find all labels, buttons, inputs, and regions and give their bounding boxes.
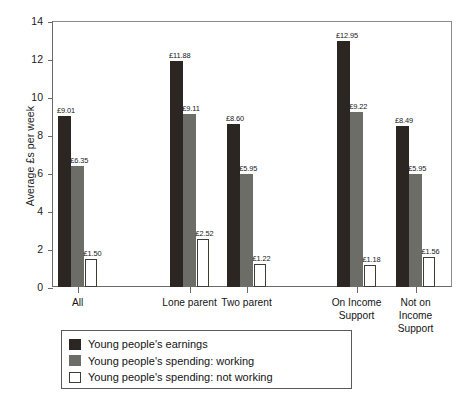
bar-value-label: £2.52 bbox=[196, 229, 214, 238]
x-axis-tick bbox=[357, 287, 358, 293]
bar bbox=[350, 112, 363, 287]
y-tick-mark bbox=[48, 250, 53, 251]
bar bbox=[85, 259, 98, 288]
bar bbox=[71, 166, 84, 287]
y-tick-label: 4 bbox=[15, 205, 43, 217]
legend-item: Young people's earnings bbox=[69, 336, 351, 353]
legend-swatch-icon bbox=[69, 355, 81, 366]
x-axis-category-label: All bbox=[33, 296, 123, 309]
bar bbox=[197, 239, 210, 287]
bar-value-label: £1.18 bbox=[363, 255, 381, 264]
bar-value-label: £12.95 bbox=[336, 31, 358, 40]
legend-swatch-icon bbox=[69, 339, 81, 350]
bar-value-label: £8.60 bbox=[226, 114, 244, 123]
x-axis-category-line: Not on bbox=[371, 296, 461, 309]
bar-value-label: £1.22 bbox=[253, 254, 271, 263]
bar bbox=[170, 61, 183, 287]
bar-value-label: £6.35 bbox=[70, 156, 88, 165]
y-tick-mark bbox=[48, 212, 53, 213]
bar bbox=[227, 124, 240, 287]
y-tick-label: 6 bbox=[15, 167, 43, 179]
bar-value-label: £9.22 bbox=[349, 102, 367, 111]
bar bbox=[183, 114, 196, 287]
bar bbox=[364, 265, 377, 287]
y-tick-label: 0 bbox=[15, 281, 43, 293]
bar-value-label: £1.50 bbox=[84, 249, 102, 258]
bar bbox=[423, 257, 436, 287]
x-axis-category-label: Two parent bbox=[202, 296, 292, 309]
legend-label: Young people's spending: working bbox=[88, 355, 254, 367]
bar-value-label: £5.95 bbox=[239, 164, 257, 173]
legend-label: Young people's earnings bbox=[88, 338, 208, 350]
bar-chart-figure: Average £s per week 02468101214 £9.01£6.… bbox=[0, 0, 465, 399]
y-tick-mark bbox=[48, 98, 53, 99]
x-axis-category-line: All bbox=[33, 296, 123, 309]
x-axis-tick bbox=[247, 287, 248, 293]
x-axis-category-line: Support bbox=[371, 322, 461, 335]
y-tick-label: 2 bbox=[15, 243, 43, 255]
x-axis-tick bbox=[416, 287, 417, 293]
chart-legend: Young people's earningsYoung people's sp… bbox=[61, 330, 352, 389]
legend-label: Young people's spending: not working bbox=[88, 371, 273, 383]
bar-value-label: £9.01 bbox=[57, 106, 75, 115]
bar-value-label: £8.49 bbox=[395, 116, 413, 125]
x-axis-category-line: Two parent bbox=[202, 296, 292, 309]
y-tick-mark bbox=[48, 22, 53, 23]
bar bbox=[409, 174, 422, 287]
bar-value-label: £1.56 bbox=[422, 247, 440, 256]
bar bbox=[396, 126, 409, 287]
y-tick-mark bbox=[48, 60, 53, 61]
y-tick-mark bbox=[48, 288, 53, 289]
legend-item: Young people's spending: not working bbox=[69, 369, 351, 386]
x-axis-tick bbox=[78, 287, 79, 293]
legend-swatch-icon bbox=[69, 372, 81, 383]
y-tick-label: 12 bbox=[15, 53, 43, 65]
y-tick-label: 10 bbox=[15, 91, 43, 103]
x-axis-category-label: Not onIncomeSupport bbox=[371, 296, 461, 335]
y-tick-mark bbox=[48, 136, 53, 137]
bar-value-label: £5.95 bbox=[408, 164, 426, 173]
y-tick-mark bbox=[48, 174, 53, 175]
legend-item: Young people's spending: working bbox=[69, 353, 351, 370]
y-tick-label: 8 bbox=[15, 129, 43, 141]
bar bbox=[337, 41, 350, 287]
x-axis-category-line: Income bbox=[371, 309, 461, 322]
x-axis-tick bbox=[190, 287, 191, 293]
bar bbox=[58, 116, 71, 287]
y-axis-title: Average £s per week bbox=[24, 46, 36, 266]
bar-value-label: £9.11 bbox=[182, 104, 199, 113]
bar-value-label: £11.88 bbox=[169, 51, 190, 60]
y-tick-label: 14 bbox=[15, 15, 43, 27]
bar bbox=[240, 174, 253, 287]
bar bbox=[254, 264, 267, 287]
